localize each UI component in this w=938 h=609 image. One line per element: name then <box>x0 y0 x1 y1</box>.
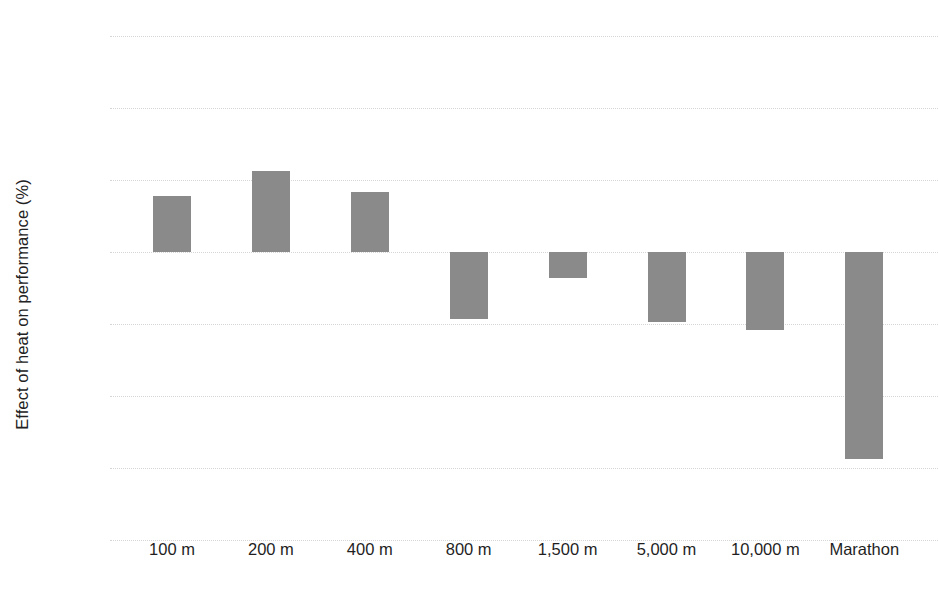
x-axis-tick-label: Marathon <box>829 540 899 559</box>
y-axis-title: Effect of heat on performance (%) <box>0 0 44 609</box>
gridline <box>110 180 938 182</box>
bar[interactable] <box>351 192 389 252</box>
gridline <box>110 468 938 470</box>
bar[interactable] <box>549 252 587 278</box>
bar[interactable] <box>648 252 686 322</box>
bar[interactable] <box>252 171 290 252</box>
x-axis-tick-label: 5,000 m <box>637 540 697 559</box>
bar[interactable] <box>450 252 488 319</box>
bar-chart: Effect of heat on performance (%) 3%2%1%… <box>0 0 938 609</box>
bar[interactable] <box>746 252 784 330</box>
x-axis-tick-label: 100 m <box>149 540 195 559</box>
x-axis-tick-label: 200 m <box>248 540 294 559</box>
gridline <box>110 108 938 110</box>
gridline <box>110 36 938 38</box>
bar[interactable] <box>845 252 883 459</box>
gridline <box>110 324 938 326</box>
bar[interactable] <box>153 196 191 252</box>
gridline <box>110 540 938 542</box>
gridline <box>110 396 938 398</box>
x-axis-tick-label: 10,000 m <box>731 540 800 559</box>
plot-area: 3%2%1%0%-1%-2%-3%-4%100 m200 m400 m800 m… <box>110 0 938 609</box>
gridline <box>110 252 938 254</box>
x-axis-tick-label: 800 m <box>446 540 492 559</box>
x-axis-tick-label: 1,500 m <box>538 540 598 559</box>
x-axis-tick-label: 400 m <box>347 540 393 559</box>
